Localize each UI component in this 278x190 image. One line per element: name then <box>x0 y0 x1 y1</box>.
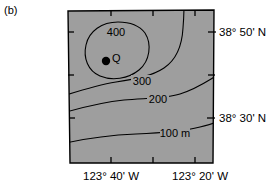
figure-panel-b: (b) <box>0 0 278 190</box>
station-marker-dot <box>102 57 110 65</box>
lat-label-bottom: 38° 30' N <box>219 112 266 124</box>
contour-label-100: 100 m <box>160 127 191 139</box>
lat-label-top: 38° 50' N <box>219 26 266 38</box>
lon-label-left: 123° 40' W <box>83 170 139 182</box>
station-label-q: Q <box>112 52 121 64</box>
contour-label-400: 400 <box>107 26 125 38</box>
contour-label-300: 300 <box>133 75 151 87</box>
lon-label-right: 123° 20' W <box>172 170 228 182</box>
contour-map: Q 400 300 200 100 m 38° 50' N 38° 30' N … <box>0 0 278 190</box>
contour-label-200: 200 <box>149 93 167 105</box>
